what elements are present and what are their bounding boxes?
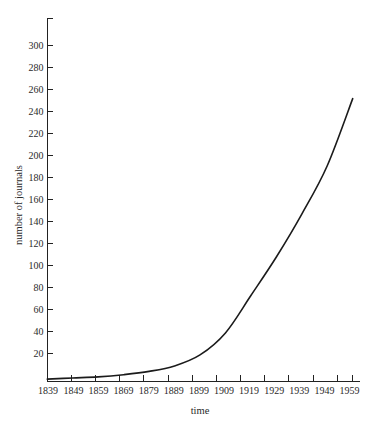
y-tick-label: 220 [29, 128, 44, 139]
y-tick-label: 20 [34, 348, 44, 359]
y-tick-label: 140 [29, 216, 44, 227]
x-tick-label: 1909 [214, 385, 234, 396]
y-tick-label: 200 [29, 150, 44, 161]
y-tick-label: 80 [34, 282, 44, 293]
y-tick-label: 100 [29, 260, 44, 271]
x-tick-label: 1929 [264, 385, 284, 396]
x-tick-label: 1939 [289, 385, 309, 396]
x-tick-label: 1869 [114, 385, 134, 396]
y-tick-label: 260 [29, 84, 44, 95]
x-tick-label: 1959 [340, 385, 360, 396]
y-axis-title: number of journals [13, 165, 24, 245]
chart-figure: 300 280 260 240 220 200 180 160 140 120 … [0, 0, 374, 425]
y-tick-label: 180 [29, 172, 44, 183]
x-tick-label: 1889 [164, 385, 184, 396]
y-tick-label: 60 [34, 304, 44, 315]
x-tick-label: 1919 [239, 385, 259, 396]
y-tick-label: 40 [34, 326, 44, 337]
x-tick-label: 1859 [89, 385, 109, 396]
x-tick-label: 1949 [314, 385, 334, 396]
x-tick-label: 1879 [139, 385, 159, 396]
x-tick-label: 1899 [189, 385, 209, 396]
y-tick-label: 160 [29, 194, 44, 205]
x-tick-label: 1849 [63, 385, 83, 396]
y-tick-label: 280 [29, 62, 44, 73]
x-tick-label: 1839 [38, 385, 58, 396]
x-axis-title: time [191, 405, 210, 416]
y-tick-label: 240 [29, 106, 44, 117]
journals-growth-line-chart: 300 280 260 240 220 200 180 160 140 120 … [0, 0, 374, 425]
y-tick-label: 120 [29, 238, 44, 249]
y-tick-label: 300 [29, 40, 44, 51]
